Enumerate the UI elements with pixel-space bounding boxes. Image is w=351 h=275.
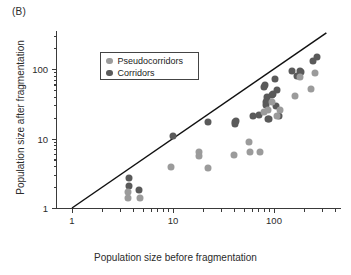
data-point <box>167 163 174 170</box>
data-point <box>204 119 211 126</box>
legend-item-pseudocorridors: Pseudocorridors <box>106 55 194 67</box>
x-minor-tick <box>157 209 158 212</box>
x-tick <box>72 209 73 213</box>
data-point <box>230 152 237 159</box>
x-minor-tick <box>163 209 164 212</box>
x-minor-tick <box>269 209 270 212</box>
data-point <box>246 138 253 145</box>
x-tick-label: 100 <box>266 215 282 226</box>
data-point <box>274 113 281 120</box>
x-minor-tick <box>168 209 169 212</box>
data-point <box>125 194 132 201</box>
legend-label: Pseudocorridors <box>118 56 184 67</box>
data-point <box>135 187 142 194</box>
x-axis-title: Population size before fragmentation <box>0 252 351 263</box>
x-minor-tick <box>252 209 253 212</box>
panel-label: (B) <box>12 6 26 17</box>
data-point <box>274 86 281 93</box>
chart-legend: Pseudocorridors Corridors <box>100 52 199 80</box>
data-point <box>313 53 320 60</box>
data-point <box>256 148 263 155</box>
data-point <box>262 82 269 89</box>
x-minor-tick <box>244 209 245 212</box>
x-minor-tick <box>133 209 134 212</box>
legend-marker-icon <box>106 58 113 65</box>
x-minor-tick <box>143 209 144 212</box>
x-minor-tick <box>258 209 259 212</box>
data-point <box>307 86 314 93</box>
x-tick <box>173 209 174 213</box>
x-minor-tick <box>304 209 305 212</box>
x-minor-tick <box>203 209 204 212</box>
data-point <box>136 194 143 201</box>
x-minor-tick <box>335 209 336 212</box>
x-tick <box>274 209 275 213</box>
legend-item-corridors: Corridors <box>106 67 194 79</box>
x-minor-tick <box>120 209 121 212</box>
x-minor-tick <box>264 209 265 212</box>
x-tick-label: 10 <box>168 215 179 226</box>
data-point <box>126 175 133 182</box>
chart-figure: (B) 111010100100 Pseudocorridors Corrido… <box>0 0 351 275</box>
data-point <box>312 69 319 76</box>
x-minor-tick <box>102 209 103 212</box>
data-point <box>271 75 278 82</box>
data-point <box>265 106 272 113</box>
x-minor-tick <box>151 209 152 212</box>
x-minor-tick <box>234 209 235 212</box>
data-point <box>170 132 177 139</box>
legend-marker-icon <box>106 70 113 77</box>
x-tick-label: 1 <box>69 215 74 226</box>
data-point <box>268 99 275 106</box>
legend-label: Corridors <box>118 68 155 79</box>
x-minor-tick <box>322 209 323 212</box>
y-axis-title: Population size after fragmentation <box>15 18 26 218</box>
data-point <box>277 106 284 113</box>
x-minor-tick <box>221 209 222 212</box>
data-point <box>195 153 202 160</box>
data-point <box>296 74 303 81</box>
data-point <box>204 164 211 171</box>
data-point <box>291 92 298 99</box>
data-point <box>247 148 254 155</box>
data-point <box>266 116 273 123</box>
data-point <box>232 117 239 124</box>
